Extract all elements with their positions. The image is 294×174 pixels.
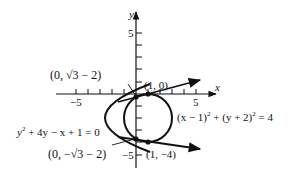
point-1-0 (145, 91, 150, 96)
circle-equation: (x − 1)2 + (y + 2)2 = 4 (177, 110, 273, 124)
label-upper-intersection: (0, √3 − 2) (50, 68, 101, 82)
label-1-0: (1, 0) (144, 79, 168, 92)
y-tick-pos5: 5 (128, 27, 134, 39)
parabola-equation: y2 + 4y − x + 1 = 0 (16, 125, 100, 138)
y-tick-neg5: −5 (122, 149, 134, 161)
point-1-neg4 (145, 139, 150, 144)
diagram: −5 5 x 5 −5 y (0, √3 (0, 0, 294, 174)
circle-curve (124, 94, 172, 142)
x-tick-pos5: 5 (193, 96, 199, 108)
point-upper-intersection (133, 94, 138, 99)
label-lower-intersection: (0, −√3 − 2) (48, 147, 106, 161)
label-1-neg4: (1, −4) (146, 148, 176, 161)
x-axis: −5 5 x (56, 81, 220, 108)
x-axis-label: x (214, 81, 220, 93)
x-tick-neg5: −5 (70, 96, 82, 108)
y-axis-label: y (128, 8, 134, 20)
